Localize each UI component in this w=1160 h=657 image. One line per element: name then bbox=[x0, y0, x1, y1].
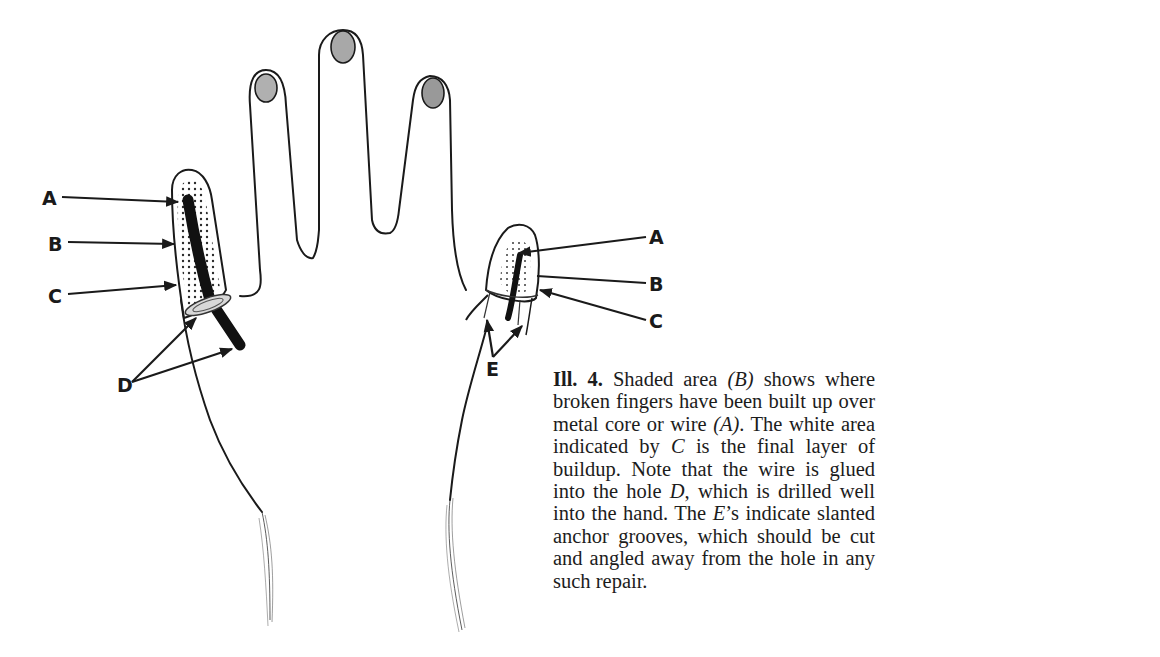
label-c-right: C bbox=[649, 310, 663, 332]
right-repaired-finger bbox=[466, 225, 539, 335]
caption-ref-d: D bbox=[670, 480, 685, 502]
fingernails bbox=[255, 31, 444, 108]
label-a-left: A bbox=[42, 187, 57, 209]
caption-ref-a: (A) bbox=[713, 413, 739, 435]
figure-caption: Ill. 4. Shaded area (B) shows where brok… bbox=[553, 368, 875, 592]
label-a-right: A bbox=[649, 226, 664, 248]
caption-ref-b: (B) bbox=[727, 368, 753, 390]
caption-label: Ill. 4. bbox=[553, 368, 603, 390]
label-d: D bbox=[117, 374, 133, 396]
label-c-left: C bbox=[48, 285, 62, 307]
caption-ref-e: E bbox=[713, 502, 726, 524]
label-b-left: B bbox=[48, 233, 62, 255]
label-e: E bbox=[486, 358, 499, 380]
left-repaired-finger bbox=[172, 170, 240, 345]
caption-ref-c: C bbox=[671, 435, 685, 457]
caption-text: Shaded area bbox=[603, 368, 728, 390]
wrist-hatching bbox=[259, 498, 465, 632]
label-b-right: B bbox=[649, 273, 663, 295]
